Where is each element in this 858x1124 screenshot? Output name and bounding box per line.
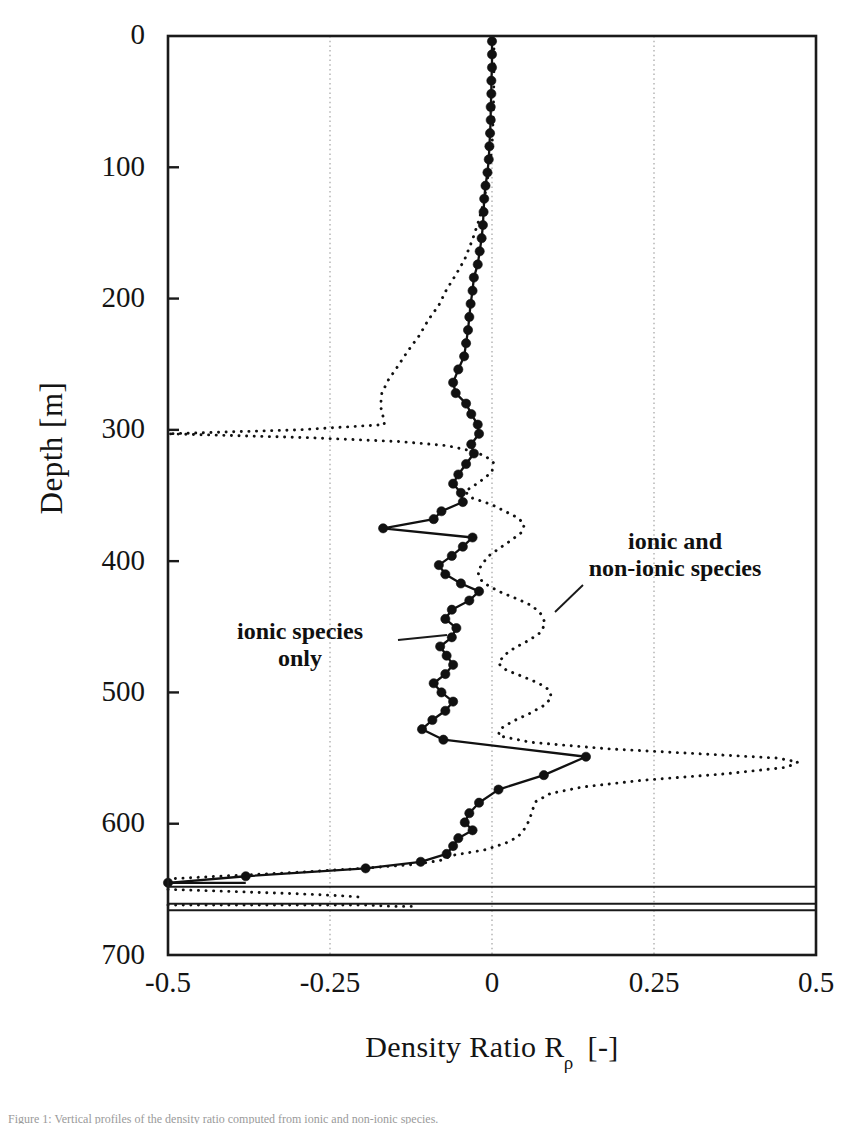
data-point-marker xyxy=(473,420,482,429)
data-point-marker xyxy=(241,872,250,881)
data-point-marker xyxy=(437,507,446,516)
data-point-marker xyxy=(454,365,463,374)
axis-layer xyxy=(168,36,816,955)
data-point-marker xyxy=(441,706,450,715)
data-point-marker xyxy=(417,725,426,734)
annotation-nonionic-line-1: ionic and xyxy=(540,528,810,555)
y-tick-label-400: 400 xyxy=(0,546,145,575)
data-point-marker xyxy=(458,542,467,551)
data-point-marker xyxy=(487,76,496,85)
data-point-marker xyxy=(456,579,465,588)
x-tick-label-0.25: 0.25 xyxy=(584,968,724,997)
x-axis-title-main: Density Ratio R xyxy=(365,1030,564,1063)
data-point-marker xyxy=(379,524,388,533)
data-point-marker xyxy=(473,260,482,269)
data-point-marker xyxy=(461,459,470,468)
data-point-marker xyxy=(474,429,483,438)
y-tick-label-300: 300 xyxy=(0,414,145,443)
data-point-marker xyxy=(479,207,488,216)
data-point-marker xyxy=(485,142,494,151)
series-path-0 xyxy=(168,41,586,883)
data-point-marker xyxy=(456,488,465,497)
data-point-marker xyxy=(449,378,458,387)
data-point-marker xyxy=(474,587,483,596)
data-point-marker xyxy=(429,679,438,688)
annotation-leader-1 xyxy=(555,585,583,612)
data-point-marker xyxy=(441,669,450,678)
x-tick-label-neg0.5: -0.5 xyxy=(98,968,238,997)
data-point-marker xyxy=(451,389,460,398)
x-tick-label-0: 0 xyxy=(422,968,562,997)
data-point-marker xyxy=(361,864,370,873)
data-point-marker xyxy=(468,533,477,542)
data-point-marker xyxy=(487,50,496,59)
data-point-marker xyxy=(452,624,461,633)
data-point-marker xyxy=(581,752,590,761)
y-tick-label-700: 700 xyxy=(0,940,145,969)
data-point-marker xyxy=(478,220,487,229)
data-point-marker xyxy=(449,697,458,706)
data-point-marker xyxy=(449,841,458,850)
data-point-marker xyxy=(485,129,494,138)
data-point-marker xyxy=(436,642,445,651)
data-point-marker xyxy=(442,849,451,858)
x-tick-label-0.5: 0.5 xyxy=(746,968,858,997)
data-point-marker xyxy=(437,688,446,697)
data-point-marker xyxy=(461,339,470,348)
data-point-marker xyxy=(458,497,467,506)
data-point-marker xyxy=(469,273,478,282)
data-point-marker xyxy=(469,449,478,458)
data-point-marker xyxy=(486,102,495,111)
y-tick-label-600: 600 xyxy=(0,808,145,837)
y-tick-label-200: 200 xyxy=(0,283,145,312)
data-point-marker xyxy=(475,247,484,256)
data-point-marker xyxy=(454,470,463,479)
y-tick-label-0: 0 xyxy=(0,20,145,49)
data-point-marker xyxy=(484,155,493,164)
x-axis-title: Density Ratio Rρ[-] xyxy=(168,1030,816,1069)
data-point-marker xyxy=(447,633,456,642)
data-point-marker xyxy=(494,785,503,794)
data-point-marker xyxy=(416,857,425,866)
x-axis-title-unit: [-] xyxy=(588,1030,619,1063)
data-point-marker xyxy=(447,605,456,614)
data-point-marker xyxy=(486,115,495,124)
data-point-marker xyxy=(477,234,486,243)
series-layer xyxy=(163,37,816,911)
data-point-marker xyxy=(460,818,469,827)
data-point-marker xyxy=(465,596,474,605)
data-point-marker xyxy=(434,560,443,569)
data-point-marker xyxy=(449,479,458,488)
data-point-marker xyxy=(481,181,490,190)
data-point-marker xyxy=(487,37,496,46)
plot-frame xyxy=(168,36,816,955)
data-point-marker xyxy=(487,63,496,72)
data-point-marker xyxy=(429,515,438,524)
data-point-marker xyxy=(449,660,458,669)
data-point-marker xyxy=(468,826,477,835)
data-point-marker xyxy=(467,440,476,449)
annotation-nonionic-line-2: non-ionic species xyxy=(540,555,810,582)
annotation-ionic-species-only: ionic species only xyxy=(190,618,410,672)
x-tick-label-neg0.25: -0.25 xyxy=(260,968,400,997)
data-point-marker xyxy=(467,410,476,419)
data-point-marker xyxy=(460,352,469,361)
data-point-marker xyxy=(454,834,463,843)
x-axis-title-subscript: ρ xyxy=(564,1052,574,1073)
series-path-2 xyxy=(168,889,362,897)
figure-caption-stub: Figure 1: Vertical profiles of the densi… xyxy=(8,1112,848,1124)
series-path-1 xyxy=(168,41,798,879)
figure-density-ratio-profile: Depth [m] 0 100 200 300 400 500 600 700 … xyxy=(0,0,858,1124)
data-point-marker xyxy=(442,651,451,660)
data-point-marker xyxy=(465,312,474,321)
data-point-marker xyxy=(447,551,456,560)
data-point-marker xyxy=(461,399,470,408)
data-point-marker xyxy=(465,809,474,818)
series-path-3 xyxy=(168,905,414,906)
data-point-marker xyxy=(539,771,548,780)
data-point-marker xyxy=(163,878,172,887)
annotation-ionic-and-non-ionic-species: ionic and non-ionic species xyxy=(540,528,810,582)
data-point-marker xyxy=(441,570,450,579)
annotation-ionic-line-1: ionic species xyxy=(190,618,410,645)
y-tick-label-100: 100 xyxy=(0,152,145,181)
